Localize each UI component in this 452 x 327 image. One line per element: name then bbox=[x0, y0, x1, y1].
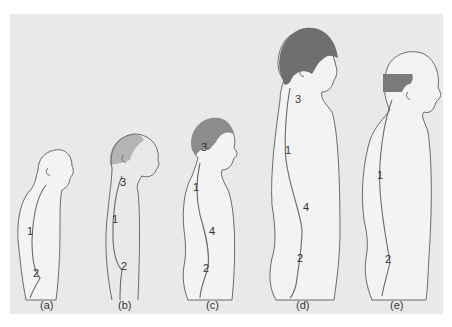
label-e-1: 1 bbox=[377, 170, 383, 181]
label-d-4: 4 bbox=[303, 202, 309, 213]
label-b-2: 2 bbox=[121, 261, 127, 272]
label-c-1: 1 bbox=[193, 182, 199, 193]
label-d-3: 3 bbox=[295, 94, 301, 105]
label-d-2: 2 bbox=[297, 253, 303, 264]
figure-c bbox=[183, 118, 237, 300]
caption-b: (b) bbox=[118, 300, 131, 311]
label-b-3: 3 bbox=[120, 177, 126, 188]
label-b-1: 1 bbox=[112, 214, 118, 225]
caption-a: (a) bbox=[40, 300, 53, 311]
label-c-4: 4 bbox=[209, 226, 215, 237]
label-a-2: 2 bbox=[33, 268, 39, 279]
figure-d bbox=[270, 28, 340, 300]
label-c-2: 2 bbox=[203, 263, 209, 274]
label-d-1: 1 bbox=[285, 145, 291, 156]
figure-e bbox=[362, 52, 440, 300]
spine-development-illustration bbox=[0, 0, 452, 327]
caption-d: (d) bbox=[296, 300, 309, 311]
caption-e: (e) bbox=[390, 300, 403, 311]
label-e-2: 2 bbox=[385, 254, 391, 265]
label-a-1: 1 bbox=[27, 226, 33, 237]
caption-c: (c) bbox=[206, 300, 219, 311]
label-c-3: 3 bbox=[201, 142, 207, 153]
